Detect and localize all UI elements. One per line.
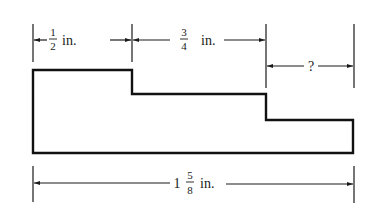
dimension-total: 1 5 8 in. (34, 169, 353, 196)
segment1-unit: in. (62, 33, 76, 48)
dimension-segment1: 1 2 in. (34, 26, 131, 52)
total-whole: 1 (174, 176, 181, 191)
segment2-denominator: 4 (181, 40, 187, 52)
dimension-segment2: 3 4 in. (133, 26, 265, 52)
segment2-numerator: 3 (181, 26, 187, 38)
segment1-numerator: 1 (50, 26, 56, 38)
stepped-shape-outline (33, 70, 353, 153)
total-unit: in. (200, 176, 214, 191)
segment1-denominator: 2 (50, 40, 56, 52)
segment2-unit: in. (201, 33, 215, 48)
total-numerator: 5 (187, 169, 193, 181)
dimension-segment3: ? (267, 59, 353, 74)
total-denominator: 8 (187, 184, 193, 196)
segment3-unknown-label: ? (308, 59, 314, 74)
stepped-bar-diagram: 1 2 in. 3 4 in. ? 1 5 8 in. (0, 0, 375, 211)
